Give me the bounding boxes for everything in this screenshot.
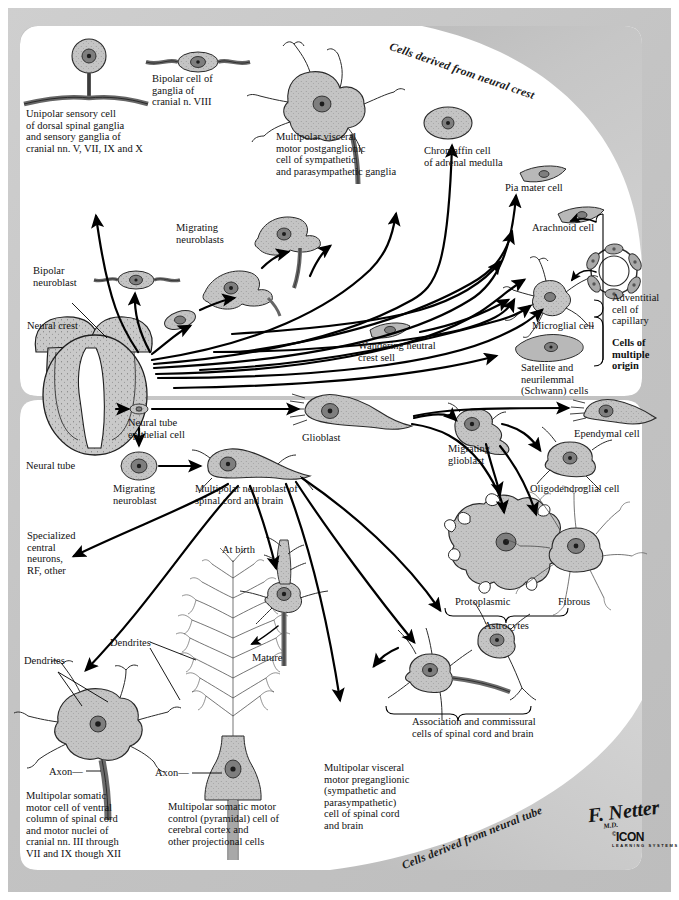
label-glioblast: Glioblast <box>302 432 382 444</box>
unipolar-sensory-cell-icon <box>24 39 148 104</box>
label-multipolar-neuroblast: Multipolar neuroblast of spinal cord and… <box>195 483 345 506</box>
label-dendrites-left: Dendrites <box>24 655 94 667</box>
label-neural-tube: Neural tube <box>26 460 122 472</box>
ependymal-cell-icon <box>570 400 656 424</box>
crest-neuroblast-1-icon <box>203 271 280 316</box>
label-axon-center: Axon— <box>155 767 205 779</box>
label-at-birth: At birth <box>222 544 282 556</box>
arachnoid-cell-icon <box>558 207 604 223</box>
label-somatic-motor-ventral: Multipolar somatic motor cell of ventral… <box>26 790 156 860</box>
label-visceral-motor-preganglionic: Multipolar visceral motor preganglionic … <box>324 762 444 832</box>
label-migrating-neuroblast: Migrating neuroblast <box>113 483 189 506</box>
protoplasmic-astrocyte-icon <box>445 494 566 593</box>
label-ependymal-cell: Ependymal cell <box>574 428 674 440</box>
label-migrating-neuroblasts: Migrating neuroblasts <box>176 222 254 245</box>
label-cells-multiple-origin: Cells of multiple origin <box>612 337 678 372</box>
label-chromaffin-cell: Chromaffin cell of adrenal medulla <box>424 145 554 168</box>
label-specialized-central-neurons: Specialized central neurons, RF, other <box>27 530 117 576</box>
label-neural-crest: Neural crest <box>27 320 123 332</box>
glioblast-icon <box>289 394 412 429</box>
label-association-commissural-cells: Association and commissural cells of spi… <box>412 716 602 739</box>
neuron-at-birth-icon <box>240 537 328 666</box>
bipolar-cell-cn8-icon <box>146 52 250 72</box>
pia-mater-cell-icon <box>520 166 566 182</box>
crest-migrating-cell-icon <box>162 307 198 333</box>
label-somatic-motor-pyramidal: Multipolar somatic motor control (pyrami… <box>168 801 328 847</box>
label-adventitial-cell-capillary: Adventitial cell of capillary <box>612 292 678 327</box>
publisher-name: ICON <box>616 830 644 844</box>
satellite-schwann-cell-icon <box>516 334 584 361</box>
label-astrocytes: Astrocytes <box>484 620 564 632</box>
label-oligodendroglial-cell: Oligodendroglial cell <box>530 483 670 495</box>
tube-migrating-neuroblast-icon <box>121 452 157 480</box>
label-pia-mater-cell: Pia mater cell <box>505 182 605 194</box>
label-axon-left: Axon— <box>49 766 99 778</box>
label-satellite-schwann-cells: Satellite and neurilemmal (Schwann) cell… <box>521 362 606 397</box>
label-fibrous: Fibrous <box>558 596 628 608</box>
publisher-logo: ©ICON LEARNING SYSTEMS <box>612 830 679 848</box>
label-bipolar-neuroblast: Bipolar neuroblast <box>33 265 113 288</box>
label-bipolar-cell-cn8: Bipolar cell of ganglia of cranial n. VI… <box>152 73 262 108</box>
label-wandering-crest-cell: Wandering neutral crest sell <box>358 340 488 363</box>
label-neural-tube-epithelial-cell: Neural tube epithelial cell <box>128 417 224 440</box>
publisher-tagline: LEARNING SYSTEMS <box>612 843 679 848</box>
label-migrating-glioblast: Migrating glioblast <box>448 443 518 466</box>
label-protoplasmic: Protoplasmic <box>455 596 545 608</box>
label-arachnoid-cell: Arachnoid cell <box>532 222 632 234</box>
label-dendrites-center: Dendrites <box>110 637 180 649</box>
label-unipolar-sensory-cell: Unipolar sensory cell of dorsal spinal g… <box>26 108 216 154</box>
neural-tube-epithelial-cell-icon <box>130 404 148 414</box>
label-mature: Mature <box>252 652 312 664</box>
figure-page: Cells derived from neural crest Cells de… <box>0 0 679 900</box>
